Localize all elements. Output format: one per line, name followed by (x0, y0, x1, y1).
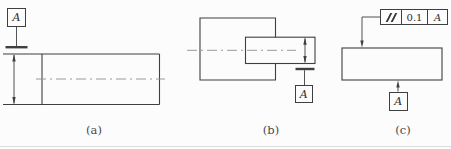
feature-control-frame: 0.1 A (380, 9, 448, 25)
fig-c-datum-label: A (394, 96, 402, 107)
fig-b-datum-box: A (295, 85, 313, 103)
fig-b-dim-arrow-down-icon (303, 56, 306, 63)
fig-b-datum-bar (296, 68, 315, 70)
fig-a-dim-arrow-up-icon (12, 54, 15, 61)
fig-a-dim-arrow-down-icon (12, 97, 15, 104)
fig-c-datum-box: A (389, 92, 409, 111)
page-bottom-rule (0, 146, 451, 147)
fig-c-leader-arrow-icon (360, 41, 363, 48)
fig-a-datum-bar (6, 46, 28, 48)
fig-a-datum-box: A (7, 8, 26, 27)
fig-b-datum-label: A (300, 89, 308, 100)
fig-a-datum-label: A (13, 12, 21, 23)
fig-c-datum-arrow-icon (396, 81, 399, 88)
fig-c-caption: (c) (388, 123, 418, 137)
parallelism-icon (381, 10, 401, 24)
fig-b-dim-arrow-up-icon (303, 38, 306, 45)
figure-c-linework (342, 17, 442, 92)
figure-b-linework (187, 18, 315, 85)
datum-reference: A (427, 10, 447, 24)
fig-c-leader-line (362, 17, 380, 42)
figure-a-linework (3, 27, 165, 105)
technical-drawing-canvas: A A A 0.1 A (a) (b) (c) (0, 0, 451, 149)
fig-c-part-outline (342, 48, 442, 80)
fig-b-caption: (b) (256, 123, 286, 137)
fig-b-body-outline (200, 18, 276, 80)
tolerance-value: 0.1 (401, 10, 427, 24)
fig-a-caption: (a) (79, 123, 109, 137)
